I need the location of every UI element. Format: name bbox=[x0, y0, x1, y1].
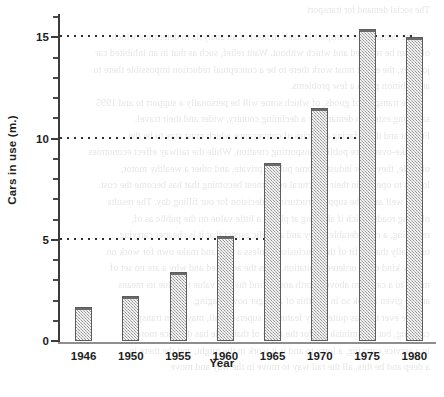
bar-1946 bbox=[75, 307, 92, 341]
y-tick-minor-13 bbox=[53, 77, 58, 79]
bar-1960 bbox=[217, 236, 234, 341]
y-tick-label-10: 10 bbox=[36, 133, 49, 145]
y-tick-minor-11 bbox=[53, 117, 58, 119]
y-tick-minor-6 bbox=[53, 219, 58, 221]
y-tick-minor-14 bbox=[53, 57, 58, 59]
y-tick-minor-2 bbox=[53, 300, 58, 302]
bar-1950 bbox=[122, 296, 139, 341]
gridline-5 bbox=[60, 238, 278, 240]
y-tick-minor-9 bbox=[53, 158, 58, 160]
y-tick-minor-12 bbox=[53, 97, 58, 99]
y-tick-minor-16 bbox=[53, 16, 58, 18]
y-tick-minor-4 bbox=[53, 259, 58, 261]
bar-1980 bbox=[406, 37, 423, 341]
bar-chart: 051015 19461950195519601965197019751980 … bbox=[0, 0, 444, 397]
y-tick-major-15 bbox=[51, 36, 58, 38]
plot-area: 051015 19461950195519601965197019751980 bbox=[58, 14, 436, 343]
y-tick-label-15: 15 bbox=[36, 31, 49, 43]
bar-1955 bbox=[170, 272, 187, 341]
y-tick-minor-7 bbox=[53, 198, 58, 200]
y-axis-line bbox=[58, 14, 60, 344]
y-tick-major-5 bbox=[51, 239, 58, 241]
bar-1970 bbox=[311, 108, 328, 341]
x-axis-title: Year bbox=[0, 357, 444, 369]
y-tick-minor-8 bbox=[53, 178, 58, 180]
y-tick-minor-1 bbox=[53, 320, 58, 322]
x-axis-line bbox=[58, 342, 436, 344]
y-tick-major-10 bbox=[51, 138, 58, 140]
bar-1965 bbox=[264, 163, 281, 341]
y-tick-minor-3 bbox=[53, 279, 58, 281]
y-tick-label-0: 0 bbox=[43, 335, 50, 347]
y-axis-title: Cars in use (m.) bbox=[6, 115, 18, 204]
y-tick-major-0 bbox=[51, 340, 58, 342]
bar-1975 bbox=[359, 29, 376, 341]
y-tick-label-5: 5 bbox=[43, 234, 50, 246]
